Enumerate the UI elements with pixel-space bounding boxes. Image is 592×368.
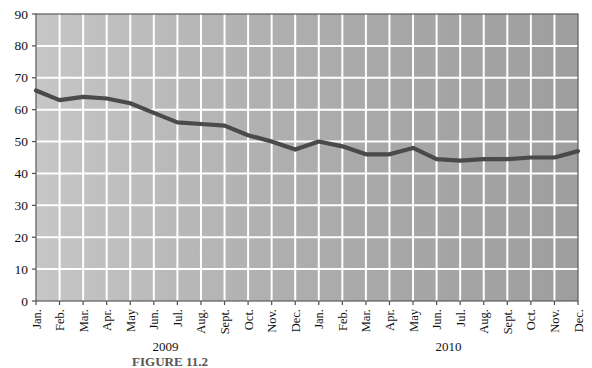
x-tick-label: Aug.: [477, 309, 491, 334]
y-tick-label: 40: [15, 166, 29, 181]
y-tick-label: 20: [15, 230, 29, 245]
x-tick-label: Sept.: [501, 309, 515, 334]
y-tick-label: 0: [21, 294, 28, 309]
x-tick-label: Jul.: [454, 309, 468, 327]
year-label: 2009: [153, 339, 179, 354]
figure-container: 0102030405060708090 Jan.Feb.Mar.Apr.MayJ…: [0, 0, 592, 368]
x-tick-label: Apr.: [383, 309, 397, 331]
x-tick-label: Sept.: [218, 309, 232, 334]
x-tick-label: Feb.: [53, 309, 67, 331]
x-tick-label: May: [407, 308, 421, 332]
y-tick-label: 30: [15, 198, 29, 213]
y-tick-label: 80: [15, 38, 29, 53]
x-tick-label: Mar.: [77, 309, 91, 332]
figure-caption: FIGURE 11.2: [132, 354, 208, 368]
x-tick-label: Nov.: [548, 309, 562, 333]
y-tick-label: 10: [15, 262, 29, 277]
line-chart: 0102030405060708090 Jan.Feb.Mar.Apr.MayJ…: [0, 0, 592, 368]
x-tick-label: Dec.: [289, 309, 303, 332]
x-tick-label: Nov.: [265, 309, 279, 333]
x-tick-label: Jun.: [430, 309, 444, 330]
x-tick-label: Jan.: [312, 309, 326, 329]
x-tick-label: Jun.: [147, 309, 161, 330]
y-tick-label: 60: [15, 102, 29, 117]
x-tick-label: Dec.: [572, 309, 586, 332]
x-tick-label: Feb.: [336, 309, 350, 331]
x-tick-label: May: [124, 308, 138, 332]
year-label: 2010: [435, 339, 461, 354]
x-tick-label: Oct.: [524, 309, 538, 330]
x-tick-label: Aug.: [194, 309, 208, 334]
x-tick-label: Jan.: [30, 309, 44, 329]
y-tick-label: 90: [15, 7, 29, 22]
x-tick-label: Apr.: [100, 309, 114, 331]
y-tick-label: 50: [15, 134, 29, 149]
x-tick-label: Oct.: [242, 309, 256, 330]
x-tick-label: Mar.: [359, 309, 373, 332]
x-tick-label: Jul.: [171, 309, 185, 327]
y-tick-label: 70: [15, 70, 29, 85]
